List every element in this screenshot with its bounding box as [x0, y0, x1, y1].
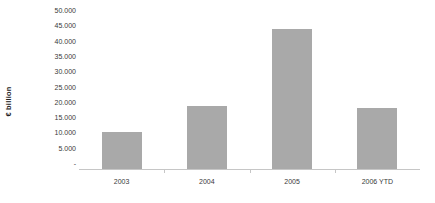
- y-axis-tick-labels: -5.00010.00015.00020.00025.00030.00035.0…: [24, 11, 76, 170]
- plot-area: [79, 17, 420, 170]
- y-axis-tick-label: 10.000: [24, 129, 76, 137]
- y-axis-tick-label: 45.000: [24, 22, 76, 30]
- y-axis-tick-label: 35.000: [24, 53, 76, 61]
- x-axis-tick-label: 2003: [79, 177, 164, 187]
- y-axis-tick-label: 40.000: [24, 38, 76, 46]
- bar[interactable]: [272, 29, 312, 169]
- y-axis-tick-label: 15.000: [24, 114, 76, 122]
- x-axis-tick-labels: 2003200420052006 YTD: [79, 177, 420, 189]
- y-axis-tick-label: 5.000: [24, 145, 76, 153]
- y-axis-tick-label: -: [24, 160, 76, 168]
- x-axis-tick-label: 2004: [164, 177, 249, 187]
- x-axis-tick-label: 2006 YTD: [335, 177, 420, 187]
- y-axis-tick-label: 50.000: [24, 7, 76, 15]
- x-axis-tick-mark: [250, 170, 251, 173]
- y-axis-tick-label: 25.000: [24, 84, 76, 92]
- bar-slot: [102, 17, 142, 169]
- y-axis-tick-label: 20.000: [24, 99, 76, 107]
- bar-slot: [357, 17, 397, 169]
- x-axis-tick-mark: [335, 170, 336, 173]
- bar-slot: [187, 17, 227, 169]
- bar[interactable]: [102, 132, 142, 169]
- bar[interactable]: [357, 108, 397, 169]
- bar-chart: € billion -5.00010.00015.00020.00025.000…: [0, 0, 435, 203]
- bar-slot: [272, 17, 312, 169]
- y-axis-tick-label: 30.000: [24, 68, 76, 76]
- y-axis-title: € billion: [0, 0, 16, 203]
- bar[interactable]: [187, 106, 227, 169]
- x-axis-tick-label: 2005: [250, 177, 335, 187]
- x-axis-tick-mark: [164, 170, 165, 173]
